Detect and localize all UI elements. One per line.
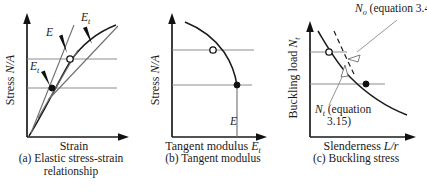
panel-c-plot: No (equation 3.4) Nt (equation 3.15) Buc… [285, 0, 427, 150]
annotation-Et-upper-label: E [80, 11, 88, 23]
annotation-Et-lower-sub: t [37, 66, 40, 75]
axes-group [23, 13, 129, 141]
hollow-point-marker [67, 56, 73, 62]
annotation-Et-lower-group: E t [29, 60, 50, 86]
panel-b-caption: (b) Tangent modulus [142, 152, 284, 165]
Nt-leader-line [329, 75, 343, 105]
annotation-Et-upper-sub: t [88, 17, 91, 26]
axes-group [168, 13, 267, 141]
annotation-E-group: E [45, 26, 67, 53]
panel-c-y-axis-label: Buckling load Nt [286, 37, 302, 119]
panel-buckling-stress: No (equation 3.4) Nt (equation 3.15) Buc… [285, 0, 427, 192]
panel-c-x-axis-label: Slenderness L/r [323, 139, 398, 153]
x-axis-arrowhead [118, 133, 129, 141]
annotation-Et-lower-label: E [29, 60, 37, 72]
E-arrowhead [59, 35, 67, 53]
No-leader-line [357, 20, 397, 52]
annotation-E-label: E [229, 115, 237, 127]
annotation-No-label: No (equation 3.4) [354, 2, 427, 17]
gridlines-group [172, 50, 254, 85]
panel-tangent-modulus: E Stress N/A Tangent modulus Et (b) Tang… [142, 0, 284, 192]
filled-point-marker [49, 85, 55, 91]
panel-c-caption-line1: (c) Buckling stress [285, 152, 427, 165]
hollow-point-marker [210, 47, 216, 53]
leader-Nt-group [329, 65, 348, 105]
y-axis-arrowhead [23, 13, 31, 24]
tangent-modulus-curve [185, 22, 237, 86]
panel-a-y-axis-label: Stress N/A [3, 54, 17, 105]
Et-lower-arrowhead [41, 71, 50, 86]
panel-a-caption-line2: relationship [0, 165, 142, 178]
panel-b-y-axis-label: Stress N/A [148, 54, 162, 105]
panel-a-plot: E E t E t Stress N/A Strain [0, 0, 142, 150]
y-axis-arrowhead [306, 21, 314, 32]
panel-a-caption: (a) Elastic stress-strain relationship [0, 152, 142, 178]
figure-container: E E t E t Stress N/A Strain (a) Elastic … [0, 0, 427, 192]
annotation-Et-upper-group: E t [80, 11, 92, 44]
gridlines-group [310, 52, 385, 84]
leader-No-group [348, 20, 397, 62]
x-axis-arrowhead [405, 133, 416, 141]
annotation-E-label: E [45, 26, 53, 38]
panel-b-caption-line1: (b) Tangent modulus [142, 152, 284, 165]
annotation-Nt-label-line2: 3.15) [327, 115, 351, 128]
filled-point-marker [234, 82, 240, 88]
panel-c-caption: (c) Buckling stress [285, 152, 427, 165]
gridlines-group [27, 59, 117, 88]
hollow-point-marker [326, 49, 332, 55]
panel-b-plot: E Stress N/A Tangent modulus Et [142, 0, 284, 150]
panel-a-x-axis-label: Strain [60, 139, 89, 153]
No-leader-arrowhead [348, 55, 360, 62]
panel-elastic-stress-strain: E E t E t Stress N/A Strain (a) Elastic … [0, 0, 142, 192]
panel-a-caption-line1: (a) Elastic stress-strain [0, 152, 142, 165]
y-axis-arrowhead [168, 13, 176, 24]
filled-point-marker [363, 81, 369, 87]
